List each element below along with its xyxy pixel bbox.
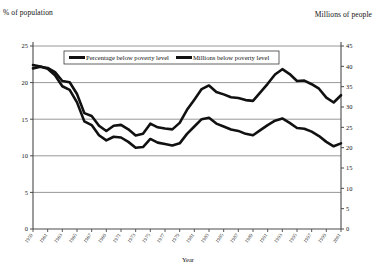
right-axis-tick-label: 25: [346, 124, 352, 131]
x-axis-tick-label: 1985: [215, 232, 225, 243]
x-axis-tick-label: 1989: [244, 232, 254, 243]
right-axis-tick-label: 40: [346, 63, 352, 70]
left-axis-tick-label: 25: [22, 42, 28, 49]
left-axis-tick-label: 5: [25, 189, 28, 196]
left-axis-title: % of population: [3, 8, 53, 17]
right-axis: 051015202530354045: [341, 42, 352, 232]
x-axis-tick-label: 1965: [68, 232, 78, 243]
x-axis: 1959196119631965196719691971197319751977…: [24, 229, 342, 244]
right-axis-title: Millions of people: [315, 10, 372, 19]
right-axis-tick-label: 0: [346, 225, 349, 232]
legend-label-2: Millions below poverty level: [193, 54, 270, 61]
x-axis-tick-label: 1973: [127, 232, 137, 243]
x-axis-tick-label: 1961: [39, 232, 49, 243]
right-axis-tick-label: 20: [346, 144, 352, 151]
x-axis-tick-label: 1983: [200, 232, 210, 243]
poverty-chart: % of population Millions of people 05101…: [0, 0, 376, 272]
x-axis-tick-label: 1995: [288, 232, 298, 243]
x-axis-tick-label: 1999: [317, 232, 327, 243]
right-axis-tick-label: 10: [346, 185, 352, 192]
legend-label-1: Percentage below poverty level: [86, 54, 169, 61]
right-axis-tick-label: 5: [346, 205, 349, 212]
right-axis-tick-label: 15: [346, 164, 352, 171]
left-axis-tick-label: 15: [22, 116, 28, 123]
x-axis-tick-label: 1991: [259, 232, 269, 243]
left-axis-tick-label: 10: [22, 152, 28, 159]
right-axis-tick-label: 35: [346, 83, 352, 90]
left-axis-tick-label: 20: [22, 79, 28, 86]
x-axis-tick-label: 1967: [83, 232, 93, 243]
right-axis-tick-label: 30: [346, 103, 352, 110]
x-axis-tick-label: 1975: [141, 232, 151, 243]
x-axis-tick-label: 1979: [171, 232, 181, 243]
x-axis-tick-label: 1997: [303, 232, 313, 243]
x-axis-tick-label: 1971: [112, 232, 122, 243]
x-axis-title: Year: [0, 256, 376, 263]
gridlines: [33, 46, 341, 192]
x-axis-tick-label: 1987: [229, 232, 239, 243]
chart-plot-area: 0510152025 051015202530354045 1959196119…: [0, 0, 376, 272]
x-axis-tick-label: 1959: [24, 232, 34, 243]
x-axis-tick-label: 1969: [97, 232, 107, 243]
left-axis-tick-label: 0: [25, 225, 28, 232]
chart-legend: Percentage below poverty levelMillions b…: [64, 51, 279, 64]
x-axis-tick-label: 2001: [332, 232, 342, 243]
x-axis-tick-label: 1977: [156, 232, 166, 243]
x-axis-tick-label: 1963: [53, 232, 63, 243]
left-axis: 0510152025: [22, 42, 33, 232]
x-axis-tick-label: 1993: [273, 232, 283, 243]
data-series-layer: [33, 65, 341, 148]
x-axis-tick-label: 1981: [185, 232, 195, 243]
right-axis-tick-label: 45: [346, 42, 352, 49]
